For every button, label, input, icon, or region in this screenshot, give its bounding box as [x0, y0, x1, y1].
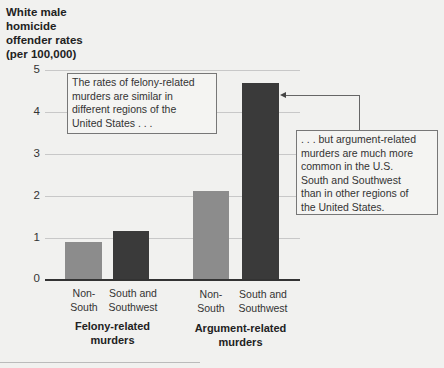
y-axis-title: White male homicide offender rates (per …: [6, 5, 126, 61]
label-line: murders: [55, 333, 170, 347]
y-title-line: White male: [6, 5, 126, 19]
label-line: Non-: [187, 287, 235, 301]
label-line: Felony-related: [55, 319, 170, 333]
arrowhead-icon: [280, 92, 286, 98]
label-line: murders: [178, 335, 303, 349]
y-tick-4: 4: [30, 105, 40, 117]
bar-argument-nonsouth: [193, 191, 229, 279]
annotation-line: common in the U.S.: [301, 160, 433, 174]
annotation-line: murders are similar in: [72, 90, 212, 104]
y-tick-1: 1: [30, 231, 40, 243]
label-line: Non-: [60, 286, 108, 300]
annotation-line: . . . but argument-related: [301, 133, 433, 147]
y-tick-3: 3: [30, 147, 40, 159]
category-label-south: South and Southwest: [233, 287, 293, 315]
annotation-argument: . . . but argument-related murders are m…: [296, 130, 438, 215]
label-line: South and: [103, 286, 163, 300]
divider: [0, 362, 200, 363]
label-line: Southwest: [103, 300, 163, 314]
annotation-line: murders are much more: [301, 147, 433, 161]
annotation-line: than in other regions of: [301, 187, 433, 201]
bar-argument-south: [242, 83, 279, 279]
label-line: South: [60, 300, 108, 314]
label-line: Argument-related: [178, 321, 303, 335]
category-label-nonsouth: Non- South: [60, 286, 108, 314]
y-title-line: homicide: [6, 19, 126, 33]
annotation-line: United States . . .: [72, 117, 212, 131]
category-label-south: South and Southwest: [103, 286, 163, 314]
label-line: South: [187, 301, 235, 315]
y-tick-5: 5: [30, 63, 40, 75]
group-label-argument: Argument-related murders: [178, 321, 303, 349]
bar-felony-nonsouth: [65, 242, 102, 279]
y-tick-0: 0: [30, 272, 40, 284]
annotation-line: The rates of felony-related: [72, 76, 212, 90]
y-title-line: (per 100,000): [6, 47, 126, 61]
annotation-line: different regions of the: [72, 103, 212, 117]
x-axis-baseline: [45, 279, 300, 281]
label-line: Southwest: [233, 301, 293, 315]
bar-felony-south: [113, 231, 149, 279]
y-tick-2: 2: [30, 189, 40, 201]
annotation-line: the United States.: [301, 201, 433, 215]
gridline: [45, 70, 300, 71]
annotation-line: South and Southwest: [301, 174, 433, 188]
arrow-line: [359, 95, 360, 131]
label-line: South and: [233, 287, 293, 301]
group-label-felony: Felony-related murders: [55, 319, 170, 347]
category-label-nonsouth: Non- South: [187, 287, 235, 315]
annotation-felony: The rates of felony-related murders are …: [67, 73, 217, 134]
y-title-line: offender rates: [6, 33, 126, 47]
arrow-line: [283, 95, 360, 96]
